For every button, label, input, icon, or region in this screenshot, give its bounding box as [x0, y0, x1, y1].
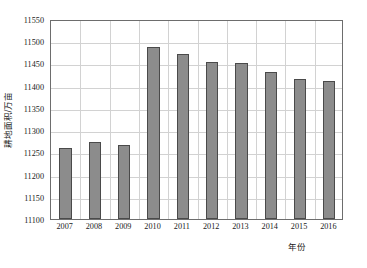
y-tick-label: 11450 — [24, 60, 44, 69]
bar-2014 — [265, 72, 277, 219]
x-tick-label: 2016 — [320, 222, 336, 231]
x-tick-label: 2008 — [86, 222, 102, 231]
gridline-vertical — [110, 21, 111, 219]
y-tick-label: 11500 — [24, 38, 44, 47]
bar-2009 — [118, 145, 130, 219]
x-tick-label: 2012 — [203, 222, 219, 231]
bar-2008 — [89, 142, 101, 219]
y-axis-title: 耕地面积/万亩 — [0, 20, 14, 220]
x-tick-label: 2010 — [144, 222, 160, 231]
x-tick-label: 2013 — [232, 222, 248, 231]
y-tick-label: 11350 — [24, 104, 44, 113]
bar-2015 — [294, 79, 306, 219]
x-axis-title: 年份 — [288, 240, 306, 252]
plot-area — [50, 20, 343, 220]
gridline-vertical — [315, 21, 316, 219]
gridline-vertical — [80, 21, 81, 219]
gridline-horizontal — [51, 65, 342, 66]
gridline-vertical — [285, 21, 286, 219]
y-axis-title-label: 耕地面积/万亩 — [1, 92, 13, 149]
bar-2012 — [206, 62, 218, 219]
y-tick-label: 11400 — [24, 82, 44, 91]
gridline-vertical — [198, 21, 199, 219]
x-tick-label: 2007 — [56, 222, 72, 231]
bar-2011 — [177, 54, 189, 219]
gridline-vertical — [227, 21, 228, 219]
bar-chart: 耕地面积/万亩 11100111501120011250113001135011… — [0, 0, 367, 268]
x-tick-label: 2015 — [291, 222, 307, 231]
x-tick-label: 2011 — [174, 222, 190, 231]
y-axis-tick-labels: 1110011150112001125011300113501140011450… — [14, 20, 47, 220]
bar-2007 — [59, 148, 71, 219]
y-tick-label: 11100 — [24, 216, 44, 225]
gridline-vertical — [139, 21, 140, 219]
y-tick-label: 11550 — [24, 16, 44, 25]
gridline-vertical — [256, 21, 257, 219]
y-tick-label: 11250 — [24, 149, 44, 158]
bar-2010 — [147, 47, 159, 219]
gridline-horizontal — [51, 43, 342, 44]
bar-2016 — [323, 81, 335, 219]
x-axis-tick-labels: 2007200820092010201120122013201420152016 — [50, 222, 343, 236]
bar-2013 — [235, 63, 247, 219]
gridline-vertical — [168, 21, 169, 219]
y-tick-label: 11300 — [24, 127, 44, 136]
x-tick-label: 2014 — [262, 222, 278, 231]
y-tick-label: 11200 — [24, 171, 44, 180]
y-tick-label: 11150 — [24, 193, 44, 202]
x-tick-label: 2009 — [115, 222, 131, 231]
